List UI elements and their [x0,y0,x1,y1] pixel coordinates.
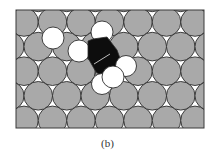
surface-atom [95,106,124,135]
hydrogen-atom [68,40,90,62]
surface-atom [181,57,210,86]
surface-atom [152,8,181,37]
surface-atom [67,106,96,135]
surface-atom [52,82,81,111]
surface-atom [10,57,39,86]
hydrogen-atom [102,66,124,88]
surface-atom [10,8,39,37]
surface-atom [209,106,215,135]
surface-atom [24,82,53,111]
surface-atom [152,57,181,86]
surface-atom [181,106,210,135]
surface-atom [209,8,215,37]
surface-atom [138,82,167,111]
surface-atom [138,32,167,61]
surface-atom [0,32,24,61]
surface-atom [209,57,215,86]
surface-atom [0,82,24,111]
surface-atom [38,106,67,135]
surface-atom [166,32,195,61]
hydrogen-atom [42,27,64,49]
surface-atom [152,106,181,135]
surface-atom [181,8,210,37]
surface-atom [0,8,10,37]
surface-atom [124,106,153,135]
surface-atom [10,106,39,135]
surface-atom [38,57,67,86]
surface-atom [0,106,10,135]
surface-atom [166,82,195,111]
adsorption-diagram [0,0,215,154]
surface-atom [124,8,153,37]
surface-atom [0,57,10,86]
figure-caption: (b) [0,137,215,149]
